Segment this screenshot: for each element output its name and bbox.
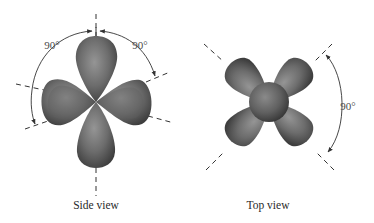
top-view: [204, 44, 342, 170]
tilted-axis-left: [16, 84, 44, 90]
central-sphere: [249, 82, 289, 122]
orbital-diagram: [0, 0, 374, 223]
side-view-right-angle-label: 90°: [132, 39, 147, 51]
top-view-angle-label: 90°: [340, 100, 355, 112]
side-view-caption: Side view: [73, 199, 119, 211]
diag-axis-bl: [206, 152, 224, 170]
tilted-axis2-right: [146, 72, 170, 82]
side-view: [16, 14, 174, 196]
diag-axis-br: [316, 152, 334, 170]
diag-axis-tl: [204, 44, 224, 62]
side-view-left-angle-label: 90°: [44, 39, 59, 51]
tilted-axis-right: [148, 116, 174, 123]
tilted-axis2-left: [25, 121, 48, 129]
top-view-caption: Top view: [247, 199, 290, 211]
